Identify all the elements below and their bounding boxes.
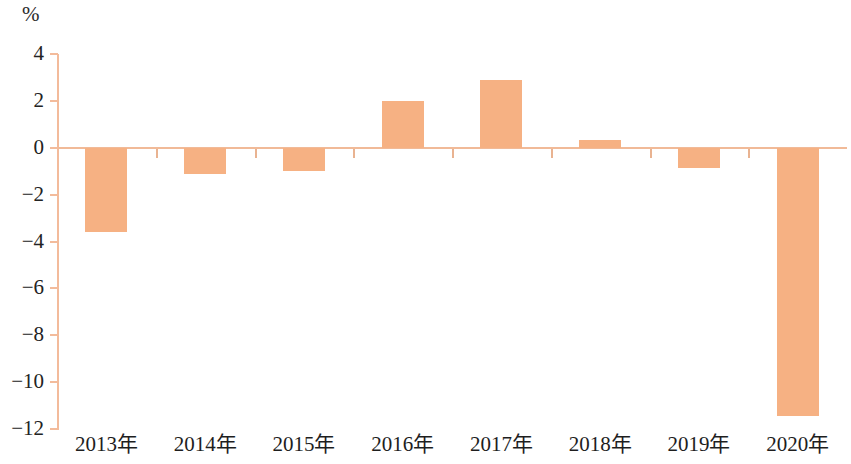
y-tick-label: 4 — [0, 43, 44, 64]
y-tick-mark — [50, 428, 58, 430]
bar — [777, 148, 819, 416]
y-tick-mark — [50, 241, 58, 243]
x-axis-label: 2013年 — [51, 434, 161, 455]
bar — [382, 101, 424, 148]
bar — [85, 148, 127, 232]
y-tick-label: −10 — [0, 371, 44, 392]
bar — [678, 148, 720, 168]
x-axis-label: 2019年 — [644, 434, 754, 455]
y-tick-label: 0 — [0, 137, 44, 158]
x-axis-label: 2015年 — [249, 434, 359, 455]
y-tick-mark — [50, 194, 58, 196]
y-tick-label: 2 — [0, 90, 44, 111]
x-axis-label: 2020年 — [743, 434, 851, 455]
x-axis-label: 2016年 — [348, 434, 458, 455]
y-tick-label: −4 — [0, 231, 44, 252]
bar — [579, 140, 621, 148]
y-tick-label: −8 — [0, 324, 44, 345]
y-tick-mark — [50, 334, 58, 336]
category-tick-mark — [748, 149, 750, 158]
y-tick-label: −2 — [0, 184, 44, 205]
bar-chart: % 420−2−4−6−8−10−12 2013年2014年2015年2016年… — [0, 0, 851, 464]
y-tick-label: −6 — [0, 277, 44, 298]
y-axis-unit-label: % — [22, 2, 40, 26]
bar — [480, 80, 522, 148]
category-tick-mark — [650, 149, 652, 158]
x-axis-label: 2014年 — [150, 434, 260, 455]
category-tick-mark — [353, 149, 355, 158]
category-tick-mark — [452, 149, 454, 158]
category-tick-mark — [255, 149, 257, 158]
y-tick-mark — [50, 287, 58, 289]
bar — [283, 148, 325, 171]
y-tick-label: −12 — [0, 418, 44, 439]
y-tick-mark — [50, 53, 58, 55]
x-axis-label: 2018年 — [545, 434, 655, 455]
bar — [184, 148, 226, 174]
category-tick-mark — [551, 149, 553, 158]
y-tick-mark — [50, 381, 58, 383]
y-tick-mark — [50, 100, 58, 102]
category-tick-mark — [156, 149, 158, 158]
x-axis-label: 2017年 — [446, 434, 556, 455]
y-tick-mark — [50, 147, 58, 149]
